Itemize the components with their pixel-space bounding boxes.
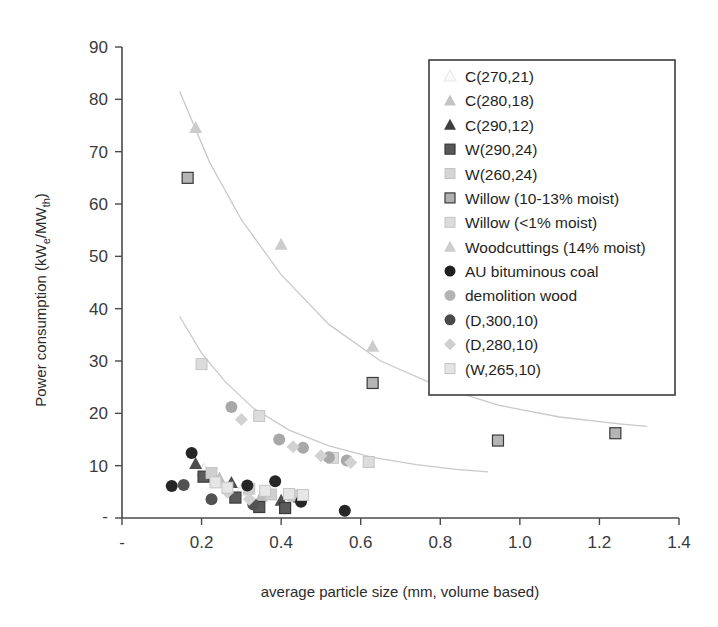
legend-item-label: (W,265,10) [465, 361, 541, 378]
legend-item[interactable]: Willow (10-13% moist) [445, 190, 619, 207]
legend-marker-icon [445, 169, 455, 179]
data-point-marker [287, 440, 300, 453]
y-axis-title-mid: /MW [32, 207, 49, 239]
legend-item[interactable]: Woodcuttings (14% moist) [444, 239, 646, 256]
data-point-marker [186, 447, 198, 459]
data-point-marker [280, 503, 291, 514]
legend-marker-icon [445, 266, 456, 277]
scatter-plot: Power consumption (kWe/MWth) -1020304050… [0, 0, 718, 627]
legend: C(270,21)C(280,18)C(290,12)W(290,24)W(26… [429, 60, 675, 395]
legend-item-label: AU bituminous coal [465, 263, 599, 280]
svg-text:Power consumption (kWe/MWth): Power consumption (kWe/MWth) [32, 193, 52, 407]
data-point-marker [284, 488, 295, 499]
data-point-marker [367, 377, 378, 388]
y-tick-label: 40 [89, 300, 108, 319]
y-axis-title-post: ) [32, 193, 49, 198]
x-tick-label: 0.8 [428, 533, 452, 552]
legend-item[interactable]: demolition wood [445, 287, 578, 304]
data-point-marker [225, 401, 237, 413]
legend-item[interactable]: Willow (<1% moist) [445, 214, 597, 231]
x-tick-label: 0.2 [190, 533, 214, 552]
legend-marker-icon [445, 193, 455, 203]
data-point-marker [196, 359, 207, 370]
y-tick-label: 10 [89, 457, 108, 476]
data-point-marker [178, 479, 190, 491]
legend-item-label: W(290,24) [465, 141, 537, 158]
data-series [225, 401, 352, 466]
legend-item-label: Woodcuttings (14% moist) [465, 239, 646, 256]
data-point-marker [206, 493, 218, 505]
legend-marker-icon [445, 144, 455, 154]
data-point-marker [492, 435, 503, 446]
x-axis-title: average particle size (mm, volume based) [261, 583, 539, 600]
data-point-marker [339, 505, 351, 517]
legend-item-label: C(270,21) [465, 68, 534, 85]
legend-item-label: Willow (<1% moist) [465, 214, 597, 231]
data-point-marker [235, 413, 248, 426]
legend-item-label: C(290,12) [465, 117, 534, 134]
data-point-marker [273, 434, 285, 446]
x-tick-label: 1.0 [508, 533, 532, 552]
data-point-marker [297, 442, 309, 454]
y-axis-title: Power consumption (kWe/MWth) [32, 193, 52, 407]
legend-item-label: Willow (10-13% moist) [465, 190, 619, 207]
data-point-marker [275, 238, 288, 250]
legend-item-label: W(260,24) [465, 166, 537, 183]
data-point-marker [610, 428, 621, 439]
y-tick-label: 30 [89, 352, 108, 371]
y-tick-label: 60 [89, 195, 108, 214]
x-tick-label: 1.4 [667, 533, 691, 552]
data-point-marker [189, 121, 202, 133]
y-tick-label: 70 [89, 143, 108, 162]
data-point-marker [298, 489, 309, 500]
x-tick-label: 0.4 [269, 533, 293, 552]
legend-item-label: C(280,18) [465, 92, 534, 109]
y-tick-label: 80 [89, 90, 108, 109]
legend-marker-icon [445, 314, 456, 325]
y-tick-label: - [102, 507, 108, 526]
legend-marker-icon [445, 364, 455, 374]
data-point-marker [363, 457, 374, 468]
data-point-marker [254, 410, 265, 421]
y-tick-label: 90 [89, 38, 108, 57]
chart-figure: Power consumption (kWe/MWth) -1020304050… [0, 0, 718, 627]
legend-marker-icon [445, 217, 455, 227]
data-point-marker [241, 480, 253, 492]
x-axis-title-text: average particle size (mm, volume based) [261, 583, 539, 600]
x-tick-label: 0.6 [349, 533, 373, 552]
x-tick-label: 1.2 [588, 533, 612, 552]
data-point-marker [166, 480, 178, 492]
y-tick-label: 20 [89, 404, 108, 423]
legend-item-label: (D,280,10) [465, 336, 538, 353]
legend-item[interactable]: AU bituminous coal [445, 263, 599, 280]
legend-item-label: (D,300,10) [465, 312, 538, 329]
data-point-marker [182, 172, 193, 183]
data-point-marker [210, 477, 221, 488]
data-point-marker [366, 340, 379, 352]
data-point-marker [260, 485, 271, 496]
y-tick-label: 50 [89, 247, 108, 266]
legend-item-label: demolition wood [465, 287, 577, 304]
legend-marker-icon [445, 290, 456, 301]
y-axis-title-sub-th: th [40, 198, 52, 207]
x-tick-label: - [119, 533, 125, 552]
data-point-marker [222, 482, 233, 493]
y-axis-title-pre: Power consumption (kW [32, 243, 49, 406]
data-series [189, 121, 379, 352]
